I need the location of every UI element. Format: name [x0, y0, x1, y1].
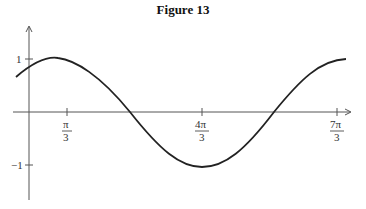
xtick-7pi-3: 7π 3	[330, 118, 344, 143]
svg-text:3: 3	[334, 131, 340, 143]
xtick-pi-3: π 3	[62, 118, 72, 143]
xtick-4pi-3: 4π 3	[195, 118, 209, 143]
plot-area: 1 −1 π 3 4π 3 7π 3	[0, 0, 366, 209]
svg-text:4π: 4π	[195, 118, 207, 130]
svg-text:7π: 7π	[330, 118, 342, 130]
svg-text:3: 3	[199, 131, 205, 143]
ytick-1: 1	[16, 53, 22, 65]
ytick-neg1: −1	[11, 159, 23, 171]
svg-text:3: 3	[63, 131, 69, 143]
svg-text:π: π	[63, 118, 69, 130]
